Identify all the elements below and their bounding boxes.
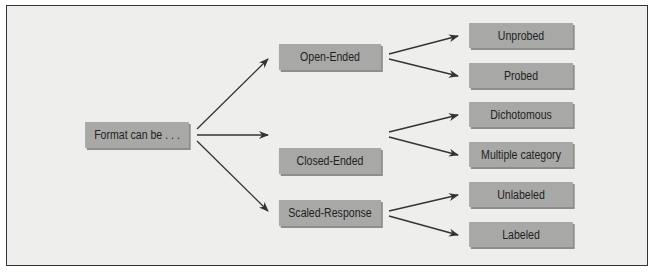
node-dichotomous: Dichotomous [469, 102, 573, 127]
node-label: Closed-Ended [297, 154, 364, 168]
node-scaled-response: Scaled-Response [279, 200, 381, 226]
node-label: Scaled-Response [288, 206, 371, 220]
node-label: Labeled [502, 228, 540, 242]
node-unlabeled: Unlabeled [469, 182, 573, 207]
node-label: Probed [504, 69, 538, 83]
node-label: Multiple category [481, 148, 561, 162]
node-label: Dichotomous [490, 108, 552, 122]
node-probed: Probed [469, 63, 573, 88]
node-labeled: Labeled [469, 222, 573, 247]
node-label: Open-Ended [300, 50, 360, 64]
node-open-ended: Open-Ended [279, 44, 381, 70]
arrow-root-to-scaled-response [197, 141, 268, 211]
node-root-label: Format can be . . . [94, 128, 180, 142]
node-label: Unprobed [498, 29, 544, 43]
node-root: Format can be . . . [85, 122, 189, 148]
node-unprobed: Unprobed [469, 23, 573, 48]
node-multiple-category: Multiple category [469, 142, 573, 167]
node-closed-ended: Closed-Ended [279, 148, 381, 174]
node-label: Unlabeled [497, 188, 545, 202]
arrow-root-to-open-ended [197, 59, 268, 129]
